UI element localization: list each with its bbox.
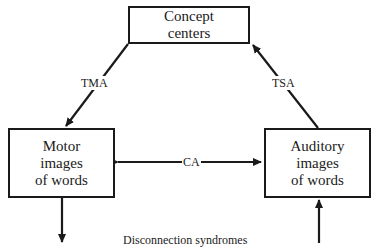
node-label: of words (291, 172, 344, 189)
caption: Disconnection syndromes (122, 233, 248, 247)
node-label: images (296, 155, 339, 172)
node-label: centers (168, 25, 210, 42)
node-label: of words (35, 172, 88, 189)
tsa-label: TSA (271, 76, 296, 90)
auditory-images-node: Auditory images of words (264, 128, 371, 198)
node-label: Auditory (290, 138, 344, 155)
node-label: images (40, 155, 83, 172)
tma-label: TMA (80, 76, 109, 90)
ca-label: CA (182, 155, 201, 169)
node-label: Motor (43, 138, 81, 155)
node-label: Concept (164, 8, 214, 25)
motor-images-node: Motor images of words (8, 128, 115, 198)
concept-centers-node: Concept centers (128, 6, 250, 44)
